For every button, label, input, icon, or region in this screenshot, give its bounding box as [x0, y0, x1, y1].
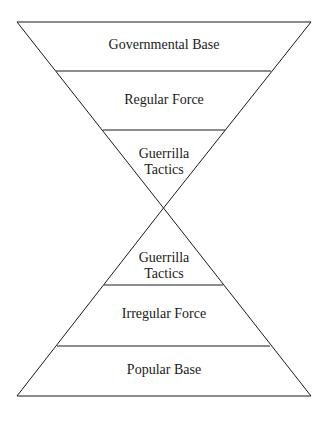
popular-base-label: Popular Base	[64, 362, 264, 378]
hourglass-diagram	[0, 0, 330, 422]
governmental-base-label: Governmental Base	[64, 37, 264, 53]
irregular-force-label: Irregular Force	[64, 306, 264, 322]
regular-force-label: Regular Force	[64, 92, 264, 108]
guerrilla-tactics-top-label-line1: Guerrilla	[64, 146, 264, 162]
guerrilla-tactics-bottom-label-line1: Guerrilla	[64, 250, 264, 266]
guerrilla-tactics-bottom-label-line2: Tactics	[64, 266, 264, 282]
guerrilla-tactics-top-label-line2: Tactics	[64, 162, 264, 178]
